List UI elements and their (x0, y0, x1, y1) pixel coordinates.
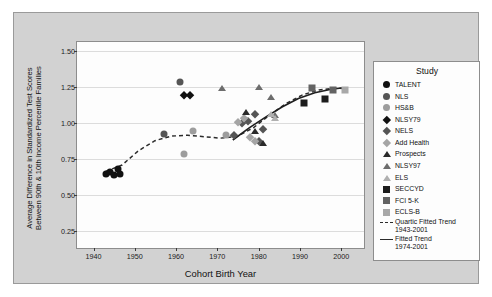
x-tick-label: 2000 (321, 252, 361, 261)
circle-marker-icon (378, 93, 395, 100)
x-tick-mark (217, 248, 218, 251)
plot-area: 0.250.500.751.001.251.501940195019601970… (76, 41, 365, 249)
x-tick-label: 1970 (197, 252, 237, 261)
square-marker-icon (378, 209, 395, 216)
diamond-marker-icon (378, 117, 395, 123)
triangle-marker-icon (378, 163, 395, 169)
data-point (271, 115, 279, 121)
x-tick-label: 1950 (115, 252, 155, 261)
trend-lines (77, 42, 364, 248)
legend-item[interactable]: ELS (378, 172, 476, 184)
y-tick-label: 1.00 (41, 118, 75, 127)
legend-trend-label: Fitted Trend1974-2001 (395, 235, 432, 250)
legend-item-label: FCI 5-K (395, 197, 419, 205)
data-point (255, 84, 263, 90)
x-tick-mark (341, 248, 342, 251)
legend-item[interactable]: HS&B (378, 102, 476, 114)
legend-item-label: TALENT (395, 81, 421, 89)
circle-marker-icon (378, 104, 395, 111)
data-point (259, 140, 267, 146)
legend-item-label: NELS (395, 127, 413, 135)
y-tick-label: 0.75 (41, 155, 75, 164)
legend-item[interactable]: ECLS-B (378, 207, 476, 219)
legend-trend-label-line2: 1974-2001 (395, 243, 432, 251)
data-point (342, 87, 349, 94)
legend: Study TALENTNLSHS&BNLSY79NELSAdd HealthP… (373, 61, 480, 261)
data-point (189, 127, 196, 134)
legend-item-label: Add Health (395, 139, 429, 147)
solid-line-icon (378, 235, 395, 240)
triangle-marker-icon (378, 175, 395, 181)
legend-item-label: ECLS-B (395, 208, 420, 216)
trend-line (106, 88, 344, 171)
legend-title: Study (378, 66, 476, 76)
legend-items: TALENTNLSHS&BNLSY79NELSAdd HealthProspec… (378, 79, 476, 252)
legend-trend-label: Quartic Fitted Trend1943-2001 (395, 218, 456, 233)
legend-item[interactable]: NLSY97 (378, 160, 476, 172)
legend-trend-label-line2: 1943-2001 (395, 226, 456, 234)
data-point (329, 87, 336, 94)
x-tick-mark (259, 248, 260, 251)
data-point (222, 132, 229, 139)
x-tick-mark (176, 248, 177, 251)
x-tick-label: 1980 (239, 252, 279, 261)
legend-item[interactable]: SECCYD (378, 183, 476, 195)
legend-item-label: NLSY97 (395, 162, 421, 170)
legend-item-label: NLS (395, 93, 408, 101)
legend-item-label: ELS (395, 174, 408, 182)
y-tick-label: 1.25 (41, 82, 75, 91)
legend-item[interactable]: Prospects (378, 149, 476, 161)
x-tick-mark (94, 248, 95, 251)
x-tick-mark (300, 248, 301, 251)
legend-item-label: NLSY79 (395, 116, 421, 124)
x-tick-label: 1960 (156, 252, 196, 261)
y-tick-label: 0.50 (41, 191, 75, 200)
y-tick-label: 0.25 (41, 227, 75, 236)
data-point (160, 130, 167, 137)
legend-item[interactable]: NLS (378, 91, 476, 103)
x-tick-label: 1940 (74, 252, 114, 261)
x-axis-title: Cohort Birth Year (76, 268, 365, 279)
square-marker-icon (378, 186, 395, 193)
legend-item[interactable]: NELS (378, 125, 476, 137)
y-tick-label: 1.50 (41, 46, 75, 55)
chart-panel: Average Difference in Standardized Test … (13, 12, 479, 284)
legend-trend-label-line1: Quartic Fitted Trend (395, 218, 456, 226)
legend-trend-item[interactable]: Quartic Fitted Trend1943-2001 (378, 218, 476, 235)
diamond-marker-icon (378, 128, 395, 134)
square-marker-icon (378, 197, 395, 204)
x-tick-label: 1990 (280, 252, 320, 261)
x-tick-mark (135, 248, 136, 251)
data-point (242, 109, 250, 115)
legend-item-label: HS&B (395, 104, 414, 112)
data-point (309, 84, 316, 91)
legend-item[interactable]: NLSY79 (378, 114, 476, 126)
legend-item[interactable]: TALENT (378, 79, 476, 91)
legend-item-label: SECCYD (395, 185, 424, 193)
data-point (117, 170, 124, 177)
data-point (251, 128, 259, 134)
triangle-marker-icon (378, 151, 395, 157)
legend-trend-label-line1: Fitted Trend (395, 235, 432, 243)
data-point (321, 96, 328, 103)
circle-marker-icon (378, 81, 395, 88)
diamond-marker-icon (378, 140, 395, 146)
data-point (267, 94, 275, 100)
chart-figure: Average Difference in Standardized Test … (0, 0, 492, 297)
dashed-line-icon (378, 218, 395, 223)
data-point (301, 100, 308, 107)
legend-item[interactable]: FCI 5-K (378, 195, 476, 207)
data-point (181, 150, 188, 157)
data-point (177, 78, 184, 85)
legend-item[interactable]: Add Health (378, 137, 476, 149)
legend-item-label: Prospects (395, 150, 426, 158)
legend-trend-item[interactable]: Fitted Trend1974-2001 (378, 235, 476, 252)
y-axis-title-line1: Average Difference in Standardized Test … (25, 66, 34, 230)
data-point (218, 85, 226, 91)
